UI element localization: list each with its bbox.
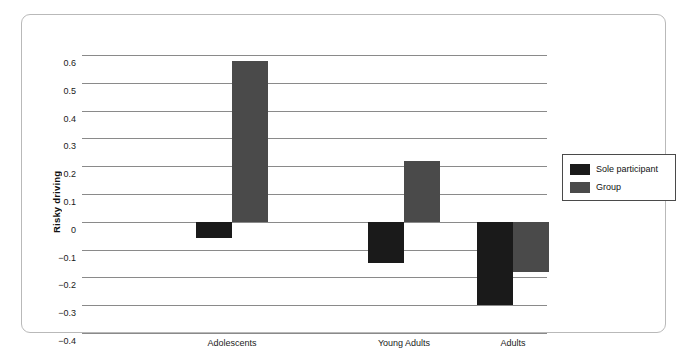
legend-item[interactable]: Group: [570, 179, 675, 195]
x-category-label: Young Adults: [378, 338, 430, 348]
y-tick-label: −0.4: [38, 336, 76, 346]
y-tick-label: 0: [38, 225, 76, 235]
legend: Sole participantGroup: [562, 154, 676, 201]
y-tick-label: 0.4: [38, 114, 76, 124]
bar: [513, 222, 549, 272]
y-tick-label: 0.1: [38, 197, 76, 207]
legend-swatch: [570, 164, 590, 175]
bar: [232, 61, 268, 222]
bar: [368, 222, 404, 264]
legend-label: Group: [596, 182, 621, 192]
legend-item[interactable]: Sole participant: [570, 161, 675, 177]
y-tick-label: −0.1: [38, 253, 76, 263]
x-category-label: Adults: [500, 338, 525, 348]
y-tick-label: 0.6: [38, 58, 76, 68]
gridline: [82, 333, 547, 334]
y-tick-label: −0.2: [38, 280, 76, 290]
y-tick-label: 0.5: [38, 86, 76, 96]
figure-frame: Risky driving 0.60.50.40.30.20.10−0.1−0.…: [21, 14, 666, 333]
y-tick-label: −0.3: [38, 308, 76, 318]
bar: [196, 222, 232, 239]
legend-label: Sole participant: [596, 164, 658, 174]
bars: [82, 55, 547, 333]
y-tick-label: 0.3: [38, 141, 76, 151]
bar: [477, 222, 513, 305]
x-category-label: Adolescents: [207, 338, 256, 348]
plot-area: 0.60.50.40.30.20.10−0.1−0.2−0.3−0.4 Adol…: [82, 55, 547, 333]
bar: [404, 161, 440, 222]
y-tick-label: 0.2: [38, 169, 76, 179]
legend-swatch: [570, 182, 590, 193]
